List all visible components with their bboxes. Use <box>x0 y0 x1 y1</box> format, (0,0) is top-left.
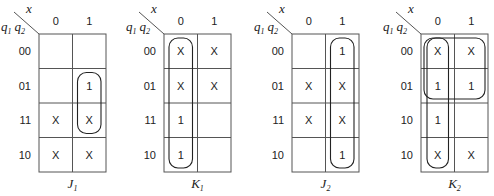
row-label: 10 <box>272 149 284 161</box>
dont-care-cell: X <box>434 149 442 161</box>
row-label: 00 <box>19 45 31 57</box>
dont-care-cell: X <box>177 45 185 57</box>
dont-care-cell: X <box>305 114 313 126</box>
row-label: 00 <box>272 45 284 57</box>
dont-care-cell: X <box>434 45 442 57</box>
one-cell: 1 <box>178 114 184 126</box>
kmap-k2: xq1q20100011010XX111XXK2 <box>383 1 488 193</box>
column-label: 0 <box>53 15 59 27</box>
column-label: 0 <box>178 15 184 27</box>
dont-care-cell: X <box>211 45 219 57</box>
column-variable-label: x <box>25 1 32 16</box>
one-cell: 1 <box>468 80 474 92</box>
dont-care-cell: X <box>86 114 94 126</box>
karnaugh-maps-figure: xq1q201000111101XXXXJ1xq1q20100011110XXX… <box>0 0 494 196</box>
one-cell: 1 <box>86 80 92 92</box>
row-label: 11 <box>145 114 156 126</box>
column-label: 1 <box>86 15 92 27</box>
column-label: 1 <box>211 15 217 27</box>
column-variable-label: x <box>407 1 414 16</box>
kmap-title: K1 <box>190 176 204 193</box>
one-cell: 1 <box>339 45 345 57</box>
column-variable-label: x <box>150 1 157 16</box>
row-label: 01 <box>19 80 31 92</box>
column-label: 0 <box>435 15 441 27</box>
row-variables-label: q1q2 <box>254 19 278 36</box>
dont-care-cell: X <box>52 149 60 161</box>
dont-care-cell: X <box>177 80 185 92</box>
row-label: 11 <box>20 114 31 126</box>
kmap-k1: xq1q20100011110XXXX11K1 <box>126 1 231 193</box>
column-variable-label: x <box>278 1 285 16</box>
dont-care-cell: X <box>86 149 94 161</box>
one-cell: 1 <box>339 149 345 161</box>
row-variables-label: q1q2 <box>126 19 150 36</box>
row-label: 11 <box>273 114 284 126</box>
dont-care-cell: X <box>339 114 347 126</box>
kmap-j1: xq1q201000111101XXXXJ1 <box>1 1 106 193</box>
row-label: 10 <box>401 149 413 161</box>
dont-care-cell: X <box>468 45 476 57</box>
row-label: 10 <box>144 149 156 161</box>
one-cell: 1 <box>435 80 441 92</box>
column-label: 0 <box>306 15 312 27</box>
row-variables-label: q1q2 <box>1 19 25 36</box>
row-label: 00 <box>144 45 156 57</box>
one-cell: 1 <box>178 149 184 161</box>
column-label: 1 <box>339 15 345 27</box>
row-variables-label: q1q2 <box>383 19 407 36</box>
dont-care-cell: X <box>468 149 476 161</box>
row-label: 10 <box>19 149 31 161</box>
dont-care-cell: X <box>339 80 347 92</box>
row-label: 01 <box>272 80 284 92</box>
kmap-title: J1 <box>68 176 78 193</box>
kmap-j2: xq1q201000111101XXXX1J2 <box>254 1 359 193</box>
dont-care-cell: X <box>52 114 60 126</box>
row-label: 01 <box>401 80 413 92</box>
column-label: 1 <box>468 15 474 27</box>
one-cell: 1 <box>435 114 441 126</box>
dont-care-cell: X <box>305 80 313 92</box>
row-label: 00 <box>401 45 413 57</box>
kmap-title: J2 <box>321 176 331 193</box>
dont-care-cell: X <box>211 80 219 92</box>
kmap-title: K2 <box>447 176 461 193</box>
row-label: 01 <box>144 80 156 92</box>
row-label: 10 <box>401 114 413 126</box>
